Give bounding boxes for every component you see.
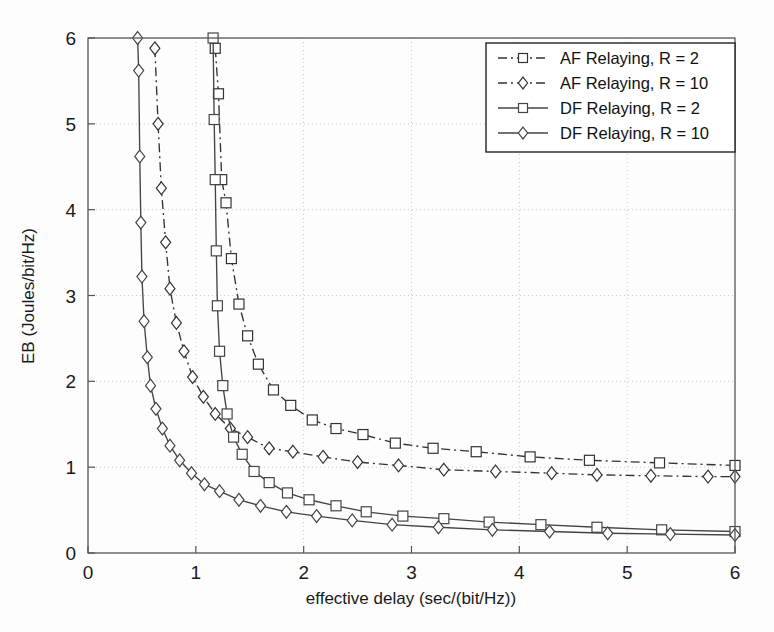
marker-diamond <box>161 236 171 249</box>
y-tick-label: 6 <box>65 28 76 49</box>
marker-square <box>331 501 341 511</box>
marker-square <box>439 514 449 524</box>
marker-diamond <box>179 345 189 358</box>
x-tick-label: 5 <box>622 562 633 583</box>
marker-diamond <box>394 459 404 472</box>
marker-square <box>234 299 244 309</box>
x-tick-label: 1 <box>191 562 202 583</box>
marker-diamond <box>347 514 357 527</box>
marker-diamond <box>134 64 144 77</box>
marker-diamond <box>288 445 298 458</box>
marker-square <box>209 115 219 125</box>
marker-diamond <box>281 505 291 518</box>
marker-diamond <box>142 351 152 364</box>
marker-square <box>264 478 274 488</box>
x-axis-label: effective delay (sec/(bit/Hz)) <box>306 589 516 608</box>
marker-diamond <box>703 470 713 483</box>
marker-square <box>229 432 239 442</box>
y-tick-label: 0 <box>65 543 76 564</box>
y-tick-label: 2 <box>65 371 76 392</box>
marker-diamond <box>135 150 145 163</box>
marker-diamond <box>353 456 363 469</box>
marker-square <box>398 511 408 521</box>
marker-square <box>525 452 535 462</box>
marker-square <box>390 438 400 448</box>
marker-square <box>215 346 225 356</box>
marker-diamond <box>264 442 274 455</box>
legend-item-label: AF Relaying, R = 2 <box>560 49 699 67</box>
legend-item-label: AF Relaying, R = 10 <box>560 74 708 92</box>
marker-square <box>655 458 665 468</box>
x-tick-label: 4 <box>514 562 525 583</box>
marker-diamond <box>171 317 181 330</box>
marker-square <box>210 43 220 53</box>
marker-square <box>218 381 228 391</box>
marker-square <box>210 175 220 185</box>
marker-square <box>471 447 481 457</box>
marker-square <box>536 520 546 530</box>
marker-diamond <box>153 117 163 130</box>
marker-diamond <box>256 499 266 512</box>
x-tick-label: 2 <box>298 562 309 583</box>
marker-diamond <box>234 493 244 506</box>
marker-square <box>286 400 296 410</box>
marker-square <box>282 488 292 498</box>
legend-item-label: DF Relaying, R = 10 <box>560 124 709 142</box>
marker-diamond <box>156 182 166 195</box>
marker-square <box>226 254 236 264</box>
marker-diamond <box>150 42 160 55</box>
marker-square <box>222 409 232 419</box>
chart-plot: 01234560123456 effective delay (sec/(bit… <box>0 0 774 632</box>
marker-square <box>213 89 223 99</box>
y-tick-label: 5 <box>65 114 76 135</box>
marker-diamond <box>592 468 602 481</box>
marker-diamond <box>215 485 225 498</box>
marker-square <box>249 466 259 476</box>
marker-diamond <box>646 469 656 482</box>
marker-diamond <box>139 315 149 328</box>
marker-square <box>211 246 221 256</box>
marker-diamond <box>157 422 167 435</box>
marker-diamond <box>136 216 146 229</box>
y-axis-label: EB (Joules/bit/Hz) <box>19 228 38 364</box>
marker-square <box>307 415 317 425</box>
marker-square <box>221 198 231 208</box>
marker-square <box>304 495 314 505</box>
marker-diamond <box>439 463 449 476</box>
marker-diamond <box>603 527 613 540</box>
marker-diamond <box>198 390 208 403</box>
marker-diamond <box>146 379 156 392</box>
marker-diamond <box>547 467 557 480</box>
marker-square <box>268 385 278 395</box>
marker-square <box>361 507 371 517</box>
marker-square <box>237 449 247 459</box>
marker-square <box>428 443 438 453</box>
x-tick-label: 6 <box>730 562 741 583</box>
marker-diamond <box>243 431 253 444</box>
y-tick-label: 1 <box>65 457 76 478</box>
marker-diamond <box>165 282 175 295</box>
marker-diamond <box>151 402 161 415</box>
marker-diamond <box>387 518 397 531</box>
marker-square <box>584 455 594 465</box>
legend-item-label: DF Relaying, R = 2 <box>560 99 700 117</box>
marker-square <box>212 301 222 311</box>
legend-box[interactable]: AF Relaying, R = 2AF Relaying, R = 10DF … <box>486 43 735 152</box>
marker-square <box>243 331 253 341</box>
marker-square <box>592 522 602 532</box>
marker-square <box>519 104 528 113</box>
marker-square <box>253 359 263 369</box>
x-tick-label: 0 <box>83 562 94 583</box>
y-tick-label: 3 <box>65 286 76 307</box>
marker-diamond <box>137 270 147 283</box>
marker-diamond <box>318 450 328 463</box>
marker-square <box>358 430 368 440</box>
figure-canvas: 01234560123456 effective delay (sec/(bit… <box>0 0 774 632</box>
x-tick-label: 3 <box>406 562 417 583</box>
marker-square <box>331 424 341 434</box>
y-tick-label: 4 <box>65 200 76 221</box>
marker-square <box>519 54 528 63</box>
marker-diamond <box>312 510 322 523</box>
marker-diamond <box>199 478 209 491</box>
